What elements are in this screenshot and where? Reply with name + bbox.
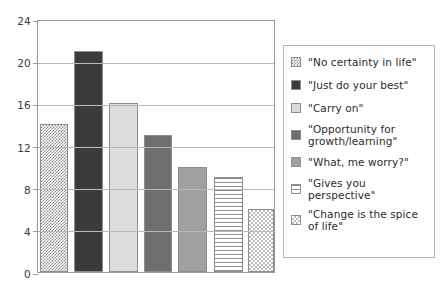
y-axis-tick: [33, 105, 38, 106]
legend-swatch-icon: [291, 103, 301, 113]
y-axis-tick-label: 24: [17, 15, 31, 27]
gridline: [38, 189, 274, 190]
legend-item[interactable]: "Just do your best": [291, 77, 428, 93]
bar: [74, 51, 103, 272]
gridline: [38, 231, 274, 232]
gridline: [38, 147, 274, 148]
bar: [214, 177, 243, 272]
legend-item-label: "Change is the spice of life": [308, 208, 428, 232]
y-axis-tick-label: 0: [24, 268, 31, 280]
chart-legend: "No certainty in life""Just do your best…: [283, 45, 435, 258]
y-axis-tick-label: 16: [17, 99, 31, 111]
bar: [144, 135, 172, 272]
bar: [248, 209, 274, 272]
y-axis-tick-label: 4: [24, 226, 31, 238]
legend-item-label: "No certainty in life": [308, 56, 417, 68]
legend-swatch-icon: [291, 157, 301, 167]
legend-item[interactable]: "No certainty in life": [291, 54, 428, 70]
legend-swatch-icon: [291, 80, 301, 90]
bar: [109, 103, 138, 272]
y-axis-tick-label: 12: [17, 142, 31, 154]
gridline: [38, 63, 274, 64]
y-axis-tick: [33, 274, 38, 275]
legend-item-label: "What, me worry?": [308, 156, 409, 168]
legend-swatch-icon: [291, 57, 301, 67]
legend-item-label: "Opportunity for growth/learning": [308, 123, 428, 147]
legend-item[interactable]: "Opportunity for growth/learning": [291, 123, 428, 147]
legend-item[interactable]: "What, me worry?": [291, 154, 428, 170]
legend-item-label: "Just do your best": [308, 79, 408, 91]
y-axis-tick: [33, 63, 38, 64]
y-axis-tick: [33, 231, 38, 232]
y-axis-tick: [33, 21, 38, 22]
legend-item[interactable]: "Change is the spice of life": [291, 208, 428, 232]
y-axis-tick: [33, 189, 38, 190]
gridline: [38, 105, 274, 106]
legend-item[interactable]: "Gives you perspective": [291, 177, 428, 201]
y-axis-tick: [33, 147, 38, 148]
plot-area: 24201612840: [37, 20, 275, 273]
legend-swatch-icon: [291, 130, 301, 140]
legend-item-label: "Carry on": [308, 102, 364, 114]
y-axis-tick-label: 8: [24, 184, 31, 196]
y-axis-tick-label: 20: [17, 57, 31, 69]
legend-item[interactable]: "Carry on": [291, 100, 428, 116]
bar: [178, 167, 207, 272]
legend-item-label: "Gives you perspective": [308, 177, 428, 201]
legend-swatch-icon: [291, 215, 301, 225]
legend-swatch-icon: [291, 184, 301, 194]
bar-chart: 24201612840 "No certainty in life""Just …: [0, 0, 442, 291]
